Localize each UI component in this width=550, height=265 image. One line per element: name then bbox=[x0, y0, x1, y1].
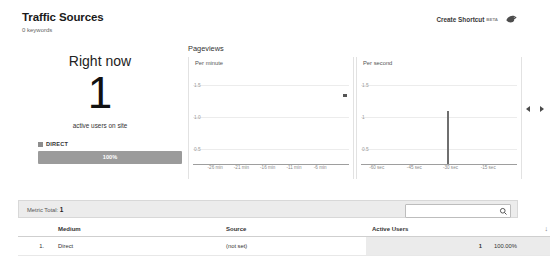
scroll-thumb-handle[interactable] bbox=[343, 94, 347, 97]
legend-swatch-icon bbox=[38, 142, 43, 147]
per-minute-plot: 1.5 1.0 0.5 -26 min -21 min -16 min -11 … bbox=[189, 73, 353, 165]
table-header-sort[interactable]: ↓ bbox=[488, 220, 550, 237]
page-header: Traffic Sources 0 keywords Create Shortc… bbox=[0, 0, 536, 40]
x-tick: -16 min bbox=[260, 165, 275, 170]
x-tick: -11 min bbox=[286, 165, 301, 170]
row-active-users: 1 bbox=[366, 237, 488, 256]
row-percent: 100.00% bbox=[488, 237, 550, 256]
search-input[interactable] bbox=[409, 205, 495, 217]
bar-per-second bbox=[447, 111, 449, 164]
chart-scroll-thumb[interactable] bbox=[340, 92, 350, 126]
per-second-chart: Per second 1.5 1 0.5 -60 sec -45 sec -30… bbox=[356, 57, 522, 179]
page-title: Traffic Sources bbox=[22, 11, 104, 23]
per-minute-chart: Per minute 1.5 1.0 0.5 -26 min -21 min -… bbox=[188, 57, 354, 179]
y-tick: 1.5 bbox=[362, 83, 369, 88]
x-tick: -6 min bbox=[314, 165, 327, 170]
right-now-title: Right now bbox=[16, 53, 184, 69]
table-header-row: Medium Source Active Users ↓ bbox=[18, 220, 550, 237]
right-now-panel: Right now 1 active users on site DIRECT … bbox=[16, 44, 184, 179]
metric-total-bar: Metric Total: 1 bbox=[18, 200, 518, 218]
x-tick: -15 sec bbox=[481, 165, 496, 170]
gridline bbox=[193, 117, 349, 118]
x-tick: -21 min bbox=[234, 165, 249, 170]
beta-badge: BETA bbox=[486, 17, 498, 22]
y-tick: 0.5 bbox=[362, 147, 369, 152]
x-tick: -30 sec bbox=[443, 165, 458, 170]
bird-icon bbox=[505, 13, 518, 25]
metric-total-label: Metric Total: bbox=[27, 207, 58, 213]
per-second-plot: 1.5 1 0.5 -60 sec -45 sec -30 sec -15 se… bbox=[357, 73, 521, 165]
row-source[interactable]: (not set) bbox=[226, 237, 366, 256]
gridline bbox=[193, 149, 349, 150]
traffic-sources-table: Medium Source Active Users ↓ 1. Direct (… bbox=[18, 220, 550, 256]
gridline bbox=[361, 117, 517, 118]
gridline bbox=[361, 149, 517, 150]
gridline bbox=[361, 85, 517, 86]
y-tick: 1 bbox=[362, 115, 365, 120]
row-rank: 1. bbox=[18, 237, 50, 256]
row-medium[interactable]: Direct bbox=[50, 237, 226, 256]
chart-next-arrow-icon[interactable] bbox=[540, 106, 544, 112]
per-minute-xticks: -26 min -21 min -16 min -11 min -6 min bbox=[189, 165, 353, 175]
create-shortcut-label: Create Shortcut bbox=[436, 16, 484, 23]
search-box[interactable] bbox=[405, 204, 511, 218]
y-tick: 1.5 bbox=[194, 83, 201, 88]
gridline bbox=[193, 85, 349, 86]
x-tick: -60 sec bbox=[369, 165, 384, 170]
charts-row: Per minute 1.5 1.0 0.5 -26 min -21 min -… bbox=[188, 57, 522, 179]
metric-total-value: 1 bbox=[60, 206, 64, 213]
x-tick: -26 min bbox=[208, 165, 223, 170]
search-icon[interactable] bbox=[499, 207, 508, 216]
pageviews-module: Pageviews Per minute 1.5 1.0 0.5 -26 min… bbox=[188, 44, 522, 180]
create-shortcut-button[interactable]: Create ShortcutBETA bbox=[436, 16, 498, 23]
y-tick: 1.0 bbox=[194, 115, 201, 120]
page-subtitle: 0 keywords bbox=[22, 27, 52, 33]
table-header-source[interactable]: Source bbox=[226, 220, 366, 237]
active-users-caption: active users on site bbox=[16, 122, 184, 129]
legend-direct-label: DIRECT bbox=[46, 141, 68, 147]
legend-direct[interactable]: DIRECT bbox=[38, 141, 68, 147]
sort-descending-icon[interactable]: ↓ bbox=[545, 225, 549, 232]
y-tick: 0.5 bbox=[194, 147, 201, 152]
x-tick: -45 sec bbox=[407, 165, 422, 170]
table-row[interactable]: 1. Direct (not set) 1 100.00% bbox=[18, 237, 550, 256]
chart-prev-arrow-icon[interactable] bbox=[526, 106, 530, 112]
pageviews-title: Pageviews bbox=[188, 44, 224, 53]
metric-total-text: Metric Total: 1 bbox=[27, 206, 63, 213]
direct-share-bar: 100% bbox=[38, 151, 182, 164]
per-second-xticks: -60 sec -45 sec -30 sec -15 sec bbox=[357, 165, 521, 175]
active-users-count: 1 bbox=[16, 70, 184, 116]
direct-share-label: 100% bbox=[38, 151, 182, 164]
per-minute-caption: Per minute bbox=[195, 60, 223, 66]
table-header-rank bbox=[18, 220, 50, 237]
per-second-caption: Per second bbox=[363, 60, 392, 66]
table-header-active-users[interactable]: Active Users bbox=[366, 220, 488, 237]
table-header-medium[interactable]: Medium bbox=[50, 220, 226, 237]
